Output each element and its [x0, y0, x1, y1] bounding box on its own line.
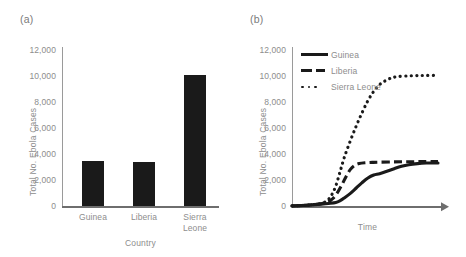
legend-swatch-dotted-icon: [301, 81, 328, 93]
bar-guinea: [82, 161, 104, 206]
panel-a-ytick-2000: 2,000: [8, 175, 56, 185]
curve-sierra-leone: [292, 75, 438, 206]
legend-item-sierra-leone[interactable]: Sierra Leone: [301, 80, 381, 93]
panel-a-bar-chart: (a) Total No. Ebola Cases 12,000 10,000 …: [0, 0, 233, 257]
panel-a-ytick-6000: 6,000: [8, 123, 56, 133]
panel-a-ytick-0: 0: [8, 201, 56, 211]
legend-label-sierra-leone: Sierra Leone: [331, 82, 381, 92]
legend-swatch-dashed-icon: [301, 65, 328, 76]
panel-b-line-chart: (b) Total No. Ebola Cases 12,000 10,000 …: [233, 0, 466, 257]
legend-label-liberia: Liberia: [331, 66, 357, 76]
legend-item-liberia[interactable]: Liberia: [301, 64, 357, 77]
bar-liberia: [133, 162, 155, 206]
panel-a-ytick-4000: 4,000: [8, 149, 56, 159]
panel-a-ytick-8000: 8,000: [8, 97, 56, 107]
panel-a-ytick-10000: 10,000: [8, 71, 56, 81]
panel-a-category-sierra-leone: Sierra Leone: [165, 212, 225, 233]
curve-guinea: [292, 163, 438, 206]
panel-b-x-axis-title: Time: [292, 222, 443, 232]
panel-a-x-axis-title: Country: [62, 238, 219, 248]
panel-a-x-axis-line: [62, 206, 219, 208]
panel-a-ytick-12000: 12,000: [8, 45, 56, 55]
panel-a-y-axis-line: [62, 47, 63, 207]
curve-liberia: [292, 162, 438, 206]
panel-b-curves: [233, 0, 466, 257]
ebola-cases-figure: (a) Total No. Ebola Cases 12,000 10,000 …: [0, 0, 466, 257]
legend-item-guinea[interactable]: Guinea: [301, 48, 359, 61]
legend-swatch-solid-icon: [301, 49, 328, 60]
panel-a-label: (a): [20, 13, 33, 25]
legend-label-guinea: Guinea: [331, 50, 359, 60]
bar-sierra-leone: [184, 75, 206, 206]
